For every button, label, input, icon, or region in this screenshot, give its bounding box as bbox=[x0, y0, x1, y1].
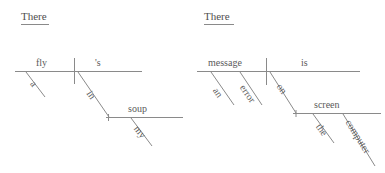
sentence-diagram-canvas: There fly 's a in soup my There message … bbox=[0, 0, 385, 173]
right-diagram-header: There bbox=[204, 11, 230, 22]
right-subject-label: message bbox=[208, 58, 242, 68]
right-prep-object-label: screen bbox=[314, 100, 340, 110]
left-diagram-header: There bbox=[21, 11, 47, 22]
left-predicate-label: 's bbox=[95, 58, 101, 68]
right-predicate-label: is bbox=[301, 58, 308, 68]
left-subject-label: fly bbox=[36, 58, 47, 68]
left-prep-object-label: soup bbox=[128, 104, 147, 114]
diagram-lines bbox=[0, 0, 385, 173]
